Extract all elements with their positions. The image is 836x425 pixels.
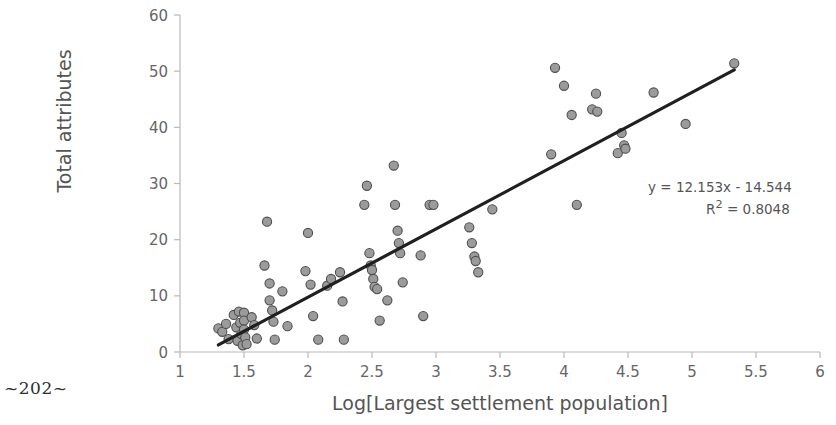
data-point (567, 110, 576, 119)
data-point (314, 335, 323, 344)
data-point (429, 200, 438, 209)
data-point (265, 296, 274, 305)
data-point (367, 265, 376, 274)
r-squared-value: = 0.8048 (723, 201, 790, 217)
data-point (383, 296, 392, 305)
x-axis-tick-label: 6 (815, 363, 825, 381)
data-point (572, 200, 581, 209)
data-point (270, 335, 279, 344)
data-point (283, 322, 292, 331)
x-axis-tick-label: 3.5 (488, 363, 512, 381)
data-point (303, 228, 312, 237)
data-point (306, 280, 315, 289)
y-axis-title: Total attributes (53, 21, 75, 221)
data-point (547, 150, 556, 159)
x-axis-tick-label: 1.5 (232, 363, 256, 381)
data-point (467, 238, 476, 247)
data-point (265, 279, 274, 288)
x-axis-tick-label: 5 (687, 363, 697, 381)
data-point (360, 200, 369, 209)
data-point (593, 107, 602, 116)
data-point (730, 59, 739, 68)
figure-scatter-plot: ~202~ Total attributes Log[Largest settl… (0, 0, 836, 425)
data-point (221, 319, 230, 328)
y-axis-tick-label: 40 (149, 119, 168, 137)
data-point (335, 268, 344, 277)
regression-equation-label: y = 12.153x - 14.544 (648, 179, 792, 195)
x-axis-tick-label: 5.5 (744, 363, 768, 381)
regression-annotation: y = 12.153x - 14.544 R2 = 0.8048 (648, 178, 792, 218)
data-point (301, 267, 310, 276)
y-axis-tick-label: 20 (149, 231, 168, 249)
data-point (488, 205, 497, 214)
data-point (393, 226, 402, 235)
x-axis-tick-label: 3 (431, 363, 441, 381)
x-axis-tick-label: 2 (303, 363, 313, 381)
x-axis-tick-label: 2.5 (360, 363, 384, 381)
x-axis-tick-label: 1 (175, 363, 185, 381)
y-axis-tick-label: 30 (149, 175, 168, 193)
data-point (621, 144, 630, 153)
y-axis-tick-label: 0 (158, 344, 168, 362)
data-point (309, 311, 318, 320)
data-point (681, 119, 690, 128)
page-number-marker: ~202~ (4, 378, 67, 398)
data-point (591, 89, 600, 98)
data-point (389, 161, 398, 170)
data-point (338, 297, 347, 306)
data-point (252, 334, 261, 343)
data-point (375, 316, 384, 325)
y-axis-tick-label: 10 (149, 287, 168, 305)
y-axis-tick-label: 50 (149, 63, 168, 81)
data-point (474, 268, 483, 277)
data-point (278, 287, 287, 296)
r-squared-exponent: 2 (716, 198, 723, 211)
data-point (365, 249, 374, 258)
data-point (559, 81, 568, 90)
data-point (398, 278, 407, 287)
data-point (339, 335, 348, 344)
data-point (649, 88, 658, 97)
data-point (390, 200, 399, 209)
data-point (416, 251, 425, 260)
data-point (550, 63, 559, 72)
data-point (373, 284, 382, 293)
y-axis-tick-label: 60 (149, 7, 168, 25)
data-point (262, 217, 271, 226)
x-axis-tick-label: 4 (559, 363, 569, 381)
data-point (465, 223, 474, 232)
r-squared-label: R2 = 0.8048 (648, 196, 792, 218)
data-point (362, 181, 371, 190)
r-squared-symbol: R (706, 201, 715, 217)
data-point (242, 340, 251, 349)
data-point (260, 261, 269, 270)
x-axis-title: Log[Largest settlement population] (180, 392, 820, 414)
data-point (419, 311, 428, 320)
x-axis-tick-label: 4.5 (616, 363, 640, 381)
data-point (471, 256, 480, 265)
